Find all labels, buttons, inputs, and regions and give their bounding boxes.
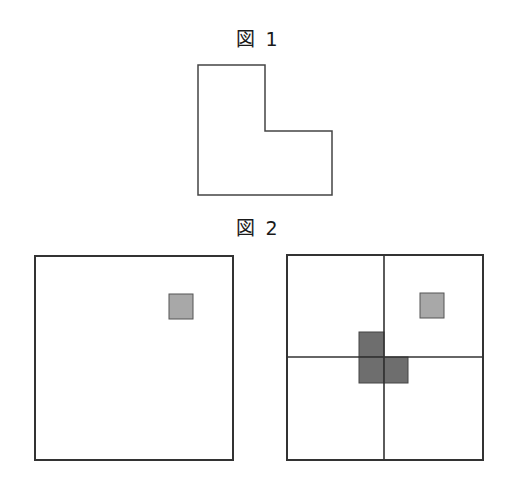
diagram-canvas	[0, 0, 520, 495]
left-light-tile	[169, 294, 193, 319]
tromino-top-cell	[359, 332, 384, 357]
l-shape-outline	[198, 65, 332, 195]
tromino-bottom-right-cell	[384, 357, 408, 383]
tromino-bottom-left-cell	[359, 357, 384, 383]
right-light-tile	[420, 293, 444, 318]
left-square	[35, 256, 233, 460]
